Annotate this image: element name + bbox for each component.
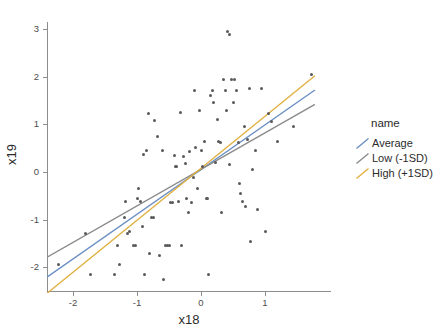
- scatter-point: [209, 94, 212, 97]
- scatter-point: [193, 89, 196, 92]
- scatter-point: [235, 89, 238, 92]
- scatter-point: [180, 244, 183, 247]
- scatter-point: [228, 163, 231, 166]
- scatter-point: [228, 33, 231, 36]
- legend-line-swatch-icon: [355, 137, 370, 150]
- scatter-point: [203, 140, 206, 143]
- scatter-point: [267, 112, 270, 115]
- scatter-point: [161, 149, 164, 152]
- scatter-point: [141, 225, 144, 228]
- scatter-point: [179, 111, 182, 114]
- scatter-point: [124, 200, 127, 203]
- scatter-point: [137, 187, 140, 190]
- scatter-point: [145, 149, 148, 152]
- legend-line-swatch-icon: [355, 152, 370, 165]
- scatter-points-layer: [47, 14, 337, 293]
- scatter-point: [147, 112, 150, 115]
- scatter-point: [185, 197, 188, 200]
- scatter-point: [177, 200, 180, 203]
- scatter-point: [139, 200, 142, 203]
- scatter-point: [200, 149, 203, 152]
- scatter-point: [153, 119, 156, 122]
- scatter-point: [212, 101, 215, 104]
- scatter-point: [190, 201, 193, 204]
- legend-item: Low (-1SD): [355, 151, 443, 166]
- scatter-point: [162, 278, 165, 281]
- legend: name AverageLow (-1SD)High (+1SD): [355, 118, 443, 181]
- scatter-point: [196, 187, 199, 190]
- y-tick-label: 2: [17, 72, 39, 82]
- scatter-point: [214, 161, 217, 164]
- scatter-point: [239, 192, 242, 195]
- plot-panel: [47, 14, 337, 293]
- scatter-point: [175, 165, 178, 168]
- scatter-point: [182, 155, 185, 158]
- scatter-point: [152, 216, 155, 219]
- scatter-point: [156, 135, 159, 138]
- legend-item-label: High (+1SD): [372, 168, 433, 179]
- scatter-point: [276, 140, 279, 143]
- scatter-point: [128, 230, 131, 233]
- x-tick-label: 1: [253, 298, 277, 308]
- scatter-point: [57, 263, 60, 266]
- scatter-point: [187, 211, 190, 214]
- scatter-point: [171, 201, 174, 204]
- scatter-point: [225, 109, 228, 112]
- legend-items: AverageLow (-1SD)High (+1SD): [355, 136, 443, 181]
- scatter-point: [237, 141, 240, 144]
- scatter-point: [249, 240, 252, 243]
- y-tick-label: -1: [17, 215, 39, 225]
- scatter-point: [246, 138, 249, 141]
- scatter-point: [254, 149, 257, 152]
- scatter-point: [243, 125, 246, 128]
- scatter-point: [173, 154, 176, 157]
- scatter-point: [224, 89, 227, 92]
- chart-figure: 3210-1-2 -2-101 x19 x18 name AverageLow …: [0, 0, 443, 332]
- legend-item: High (+1SD): [355, 166, 443, 181]
- scatter-point: [184, 162, 187, 165]
- scatter-point: [310, 73, 313, 76]
- legend-item-label: Average: [372, 138, 413, 149]
- scatter-point: [270, 120, 273, 123]
- scatter-point: [142, 153, 145, 156]
- scatter-point: [136, 197, 139, 200]
- scatter-point: [264, 230, 267, 233]
- scatter-point: [241, 200, 244, 203]
- scatter-point: [188, 150, 191, 153]
- y-axis-title: x19: [5, 133, 18, 177]
- x-tick-label: 0: [189, 298, 213, 308]
- scatter-point: [116, 244, 119, 247]
- scatter-point: [192, 176, 195, 179]
- x-tick-label: -1: [125, 298, 149, 308]
- scatter-point: [251, 168, 254, 171]
- scatter-point: [232, 101, 235, 104]
- legend-item: Average: [355, 136, 443, 151]
- scatter-point: [256, 208, 259, 211]
- scatter-point: [260, 87, 263, 90]
- scatter-point: [118, 263, 121, 266]
- scatter-point: [216, 118, 219, 121]
- scatter-point: [233, 78, 236, 81]
- legend-title: name: [371, 118, 443, 130]
- scatter-point: [244, 205, 247, 208]
- scatter-point: [198, 109, 201, 112]
- scatter-point: [113, 273, 116, 276]
- scatter-point: [238, 182, 241, 185]
- scatter-point: [248, 87, 251, 90]
- scatter-point: [207, 273, 210, 276]
- y-tick-label: 1: [17, 119, 39, 129]
- scatter-point: [84, 232, 87, 235]
- scatter-point: [143, 273, 146, 276]
- scatter-point: [201, 165, 204, 168]
- x-tick-label: -2: [61, 298, 85, 308]
- y-tick-label: 3: [17, 24, 39, 34]
- x-axis-title: x18: [47, 313, 331, 326]
- scatter-point: [194, 146, 197, 149]
- scatter-point: [148, 252, 151, 255]
- scatter-point: [158, 254, 161, 257]
- scatter-point: [292, 125, 295, 128]
- scatter-point: [206, 197, 209, 200]
- scatter-point: [89, 273, 92, 276]
- scatter-point: [211, 89, 214, 92]
- scatter-point: [222, 78, 225, 81]
